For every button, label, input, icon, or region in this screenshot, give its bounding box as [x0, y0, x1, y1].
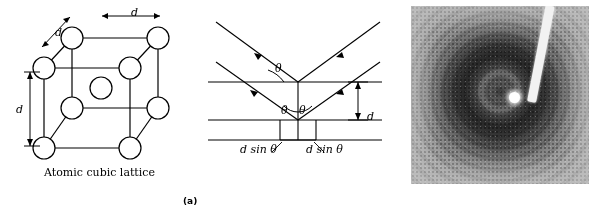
- label-path-left: d sin θ: [240, 143, 277, 156]
- direct-beam-spot: [509, 92, 520, 103]
- label-theta-left: θ: [281, 104, 288, 117]
- lattice-caption: Atomic cubic lattice: [44, 166, 155, 179]
- atom: [147, 97, 169, 119]
- label-theta-right: θ: [299, 104, 306, 117]
- panel-a: d d d Atomic cubic lattice θ θ θ d d sin…: [0, 0, 392, 218]
- incident-ray-top: [216, 22, 298, 82]
- panel-a-caption: (a): [183, 196, 197, 206]
- atom: [61, 27, 83, 49]
- atomic-cubic-lattice-diagram: [24, 13, 169, 159]
- x-ray-diffraction-pattern: [411, 6, 589, 184]
- atom: [33, 137, 55, 159]
- label-path-right: d sin θ: [306, 143, 343, 156]
- reflected-ray-top: [298, 22, 380, 82]
- atom: [119, 57, 141, 79]
- atom: [119, 137, 141, 159]
- label-d-top: d: [131, 6, 138, 19]
- atom: [61, 97, 83, 119]
- film-vignette: [411, 6, 589, 184]
- atom: [33, 57, 55, 79]
- panel-b: (b): [392, 0, 609, 218]
- dimension-vertical: [24, 72, 40, 146]
- atom-center: [90, 77, 112, 99]
- label-d-vertical: d: [16, 103, 23, 116]
- label-theta-incident: θ: [275, 62, 282, 75]
- label-d-left-edge: d: [55, 26, 62, 39]
- dimension-interplanar-d: [355, 82, 361, 120]
- label-interplanar-d: d: [367, 110, 374, 123]
- bragg-reflection-diagram: [208, 22, 382, 152]
- atom: [147, 27, 169, 49]
